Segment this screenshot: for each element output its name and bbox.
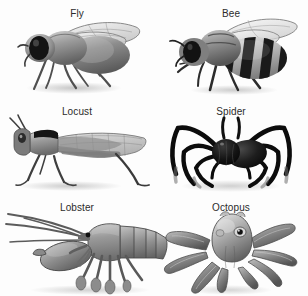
bee-illustration (154, 0, 308, 98)
figure-cell-locust: Locust (0, 98, 154, 196)
octopus-illustration (154, 196, 308, 296)
figure-cell-fly: Fly (0, 0, 154, 98)
locust-illustration (0, 98, 154, 196)
figure-cell-lobster: Lobster (0, 196, 168, 296)
figure-cell-bee: Bee (154, 0, 308, 98)
fly-illustration (0, 0, 154, 98)
animal-figure-grid: Fly (0, 0, 308, 296)
lobster-illustration (0, 196, 168, 296)
figure-cell-spider: Spider (154, 98, 308, 196)
spider-illustration (154, 98, 308, 196)
figure-cell-octopus: Octopus (154, 196, 308, 296)
